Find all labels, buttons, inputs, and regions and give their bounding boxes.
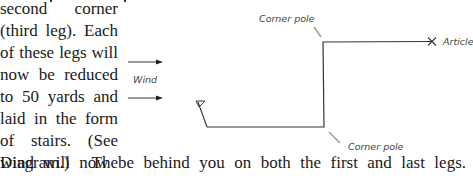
corner-pole-top-label: Corner pole (259, 13, 314, 24)
wind-arrow-icon (128, 60, 163, 65)
text-line: second corner (0, 0, 118, 20)
article-x-icon (428, 38, 436, 46)
wind-label: Wind (133, 74, 157, 85)
text-line: (third leg). Each (0, 20, 118, 42)
start-flag-icon (196, 101, 207, 127)
cut-off-text-fragment (124, 0, 126, 2)
article-label: Article (443, 36, 473, 47)
text-line: now be reduced (0, 64, 118, 86)
full-width-text-line: wind will now be behind you on both the … (0, 152, 466, 174)
corner-pole-bottom-label: Corner pole (348, 141, 403, 152)
paragraph-column: second corner (third leg). Each of these… (0, 0, 118, 174)
text-line: of these legs will (0, 42, 118, 64)
corner-pole-bottom-leader (329, 132, 340, 143)
text-line: laid in the form (0, 108, 118, 130)
course-path (207, 42, 432, 128)
wind-arrow-icon (128, 96, 163, 101)
text-line: of stairs. (See (0, 130, 118, 152)
corner-pole-top-leader (314, 27, 321, 37)
text-line: to 50 yards and (0, 86, 118, 108)
